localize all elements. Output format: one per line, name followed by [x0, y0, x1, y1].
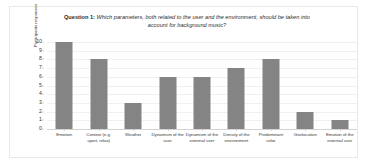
x-axis-tick-mark — [99, 129, 100, 131]
bar-slot — [254, 42, 288, 129]
x-axis-tick-mark — [64, 129, 65, 131]
x-axis-tick-mark — [236, 129, 237, 131]
x-axis-tick-mark — [271, 129, 272, 131]
x-axis-tick-labels: EmotionContext (e.g. sport, relax)Weathe… — [47, 132, 357, 162]
bar[interactable] — [125, 103, 142, 129]
bar-slot — [150, 42, 184, 129]
x-axis-tick-label: Emotion of the external user — [323, 132, 357, 143]
x-axis-tick-label: Dynamism of the external user — [185, 132, 219, 143]
y-axis-tick-mark — [42, 68, 44, 69]
bar[interactable] — [297, 112, 314, 129]
y-axis-tick-mark — [42, 111, 44, 112]
bar-slot — [81, 42, 115, 129]
x-axis-tick-label: Density of the environment — [219, 132, 253, 143]
x-axis-tick-label: Context (e.g. sport, relax) — [81, 132, 115, 143]
y-axis-tick-mark — [42, 59, 44, 60]
chart-title: Question 1: Which parameters, both relat… — [58, 13, 316, 29]
y-axis-tick-mark — [42, 50, 44, 51]
x-axis-tick-mark — [305, 129, 306, 131]
x-axis-tick-mark — [202, 129, 203, 131]
x-axis-tick-label: Emotion — [47, 132, 81, 138]
bar[interactable] — [193, 77, 210, 129]
bar-slot — [288, 42, 322, 129]
y-axis-tick-mark — [42, 94, 44, 95]
x-axis-tick-mark — [340, 129, 341, 131]
bar[interactable] — [159, 77, 176, 129]
y-axis-tick-labels: 012345678910 — [28, 42, 44, 129]
x-axis-tick-label: Weather — [116, 132, 150, 138]
y-axis-tick-mark — [42, 42, 44, 43]
bar[interactable] — [262, 59, 279, 129]
y-axis-tick-mark — [42, 76, 44, 77]
plot-area — [47, 42, 357, 129]
x-axis-tick-label: Predominant color — [254, 132, 288, 143]
bar-slot — [323, 42, 357, 129]
bar-slot — [219, 42, 253, 129]
chart-title-prefix: Question 1: — [64, 14, 95, 20]
bar[interactable] — [90, 59, 107, 129]
y-axis-tick-mark — [42, 102, 44, 103]
bar-slot — [185, 42, 219, 129]
y-axis-tick-mark — [42, 120, 44, 121]
chart-title-text: Which parameters, both related to the us… — [95, 14, 310, 28]
y-axis-tick-mark — [42, 129, 44, 130]
bar-slot — [47, 42, 81, 129]
bar[interactable] — [228, 68, 245, 129]
bar-slot — [116, 42, 150, 129]
x-axis-tick-label: Dynamism of the user — [150, 132, 184, 143]
x-axis-tick-mark — [133, 129, 134, 131]
x-axis-tick-label: Geolocation — [288, 132, 322, 138]
chart-frame: Question 1: Which parameters, both relat… — [9, 6, 358, 158]
x-axis-tick-mark — [168, 129, 169, 131]
bar[interactable] — [56, 42, 73, 129]
y-axis-tick-mark — [42, 85, 44, 86]
